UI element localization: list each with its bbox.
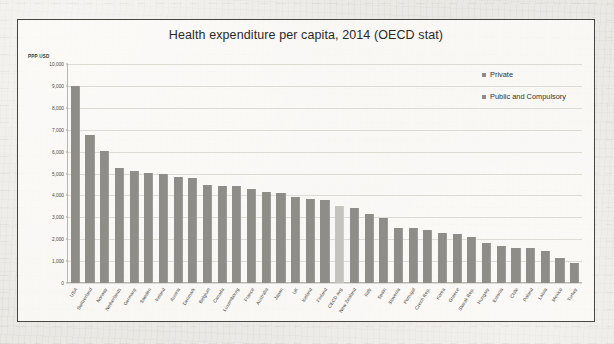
bar-slot: [362, 64, 377, 283]
x-label-slot: UK: [288, 286, 303, 338]
bar: [335, 206, 344, 283]
bar: [247, 189, 256, 283]
x-axis-label: Poland: [522, 287, 534, 302]
x-label-slot: Ireland: [156, 286, 171, 338]
x-axis-label: Korea: [435, 287, 446, 300]
bar: [541, 251, 550, 283]
bar-slot: [141, 64, 156, 283]
bar: [115, 168, 124, 283]
bar-slot: [450, 64, 465, 283]
bar-slot: [332, 64, 347, 283]
y-axis-tick-label: 0: [61, 281, 64, 286]
y-axis-tick-label: 10,000: [49, 62, 64, 67]
bar-slot: [112, 64, 127, 283]
bar-slot: [230, 64, 245, 283]
x-axis-label: Chile: [509, 287, 519, 299]
bar: [306, 199, 315, 283]
y-axis-tick-label: 5,000: [52, 171, 64, 176]
bar: [511, 248, 520, 283]
x-axis-category-labels: USASwitzerlandNorwayNetherlandsGermanySw…: [68, 286, 582, 338]
x-label-slot: Japan: [274, 286, 289, 338]
bar-slot: [347, 64, 362, 283]
bar-slot: [215, 64, 230, 283]
x-axis-label: Sweden: [139, 287, 152, 304]
x-axis-label: Norway: [95, 287, 108, 303]
y-axis-tick-label: 9,000: [52, 83, 64, 88]
y-axis-tick-label: 3,000: [52, 215, 64, 220]
bar: [320, 200, 329, 283]
bar: [379, 218, 388, 283]
x-label-slot: Iceland: [303, 286, 318, 338]
bar-slot: [421, 64, 436, 283]
x-label-slot: Chile: [509, 286, 524, 338]
bar: [188, 178, 197, 283]
x-axis-label: Iceland: [301, 287, 313, 303]
bar: [100, 151, 109, 283]
bar-slot: [274, 64, 289, 283]
x-label-slot: France: [244, 286, 259, 338]
bar-slot: [156, 64, 171, 283]
x-label-slot: Finland: [318, 286, 333, 338]
bar-slot: [259, 64, 274, 283]
bar-slot: [567, 64, 582, 283]
x-label-slot: Italy: [362, 286, 377, 338]
bar: [394, 228, 403, 283]
y-axis-tick-label: 7,000: [52, 127, 64, 132]
x-label-slot: Germany: [127, 286, 142, 338]
bar: [144, 173, 153, 283]
x-axis-label: Estonia: [492, 287, 505, 303]
bar: [438, 233, 447, 283]
bar: [159, 174, 168, 283]
bar-slot: [318, 64, 333, 283]
bar: [350, 208, 359, 283]
bar-slot: [127, 64, 142, 283]
bar-slot: [303, 64, 318, 283]
bar-slot: [244, 64, 259, 283]
bar: [482, 243, 491, 284]
x-label-slot: New Zealand: [347, 286, 362, 338]
x-axis-label: Austria: [169, 287, 181, 302]
bar-slot: [83, 64, 98, 283]
x-axis-label: Greece: [448, 287, 461, 303]
bar: [423, 230, 432, 283]
y-axis-unit-label: PPP USD: [28, 54, 49, 59]
x-axis-label: Ireland: [155, 287, 167, 302]
bar-slot: [376, 64, 391, 283]
bar-slot: [200, 64, 215, 283]
x-label-slot: Norway: [97, 286, 112, 338]
bar: [467, 237, 476, 283]
bar: [262, 192, 271, 283]
bar-slot: [97, 64, 112, 283]
bar-slot: [288, 64, 303, 283]
bar: [570, 263, 579, 283]
bar: [365, 214, 374, 283]
bar-slot: [391, 64, 406, 283]
x-label-slot: Portugal: [406, 286, 421, 338]
x-label-slot: Hungary: [479, 286, 494, 338]
x-axis-label: Japan: [273, 287, 284, 301]
bar-slot: [171, 64, 186, 283]
x-axis-label: Italy: [363, 287, 372, 297]
x-label-slot: Australia: [259, 286, 274, 338]
x-label-slot: Spain: [376, 286, 391, 338]
legend-swatch-icon: [482, 95, 486, 99]
bar: [130, 171, 139, 283]
x-label-slot: Turkey: [567, 286, 582, 338]
x-axis-label: Mexico: [551, 287, 563, 303]
bar: [526, 248, 535, 283]
bar: [218, 186, 227, 283]
bar: [291, 197, 300, 283]
x-axis-label: Spain: [376, 287, 387, 300]
x-axis-label: Finland: [316, 287, 329, 303]
x-label-slot: USA: [68, 286, 83, 338]
x-axis-label: USA: [69, 287, 78, 298]
legend-item-public-and-compulsory: Public and Compulsory: [482, 92, 566, 101]
legend-label-private: Private: [490, 70, 513, 79]
x-label-slot: Estonia: [494, 286, 509, 338]
x-label-slot: Korea: [435, 286, 450, 338]
x-axis-label: Canada: [212, 287, 225, 304]
x-label-slot: Sweden: [141, 286, 156, 338]
x-axis-label: UK: [291, 287, 299, 295]
y-axis-tick-label: 8,000: [52, 105, 64, 110]
chart-legend: Private Public and Compulsory: [482, 70, 566, 101]
